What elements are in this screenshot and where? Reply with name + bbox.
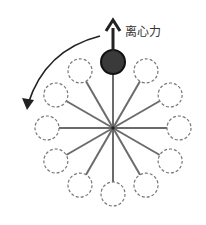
dashed-node (158, 149, 182, 173)
dashed-node (44, 83, 68, 107)
force-label: 离心力 (125, 22, 161, 39)
dashed-node (101, 182, 125, 206)
dashed-node (167, 116, 191, 140)
dashed-node (158, 83, 182, 107)
hub (111, 126, 115, 130)
centrifugal-arrow-icon (106, 20, 120, 51)
dashed-node (35, 116, 59, 140)
dashed-node (68, 59, 92, 83)
solid-node (101, 50, 125, 74)
dashed-node (134, 59, 158, 83)
dashed-node (134, 173, 158, 197)
centrifugal-force-diagram (0, 0, 206, 225)
dashed-node (68, 173, 92, 197)
dashed-node (44, 149, 68, 173)
